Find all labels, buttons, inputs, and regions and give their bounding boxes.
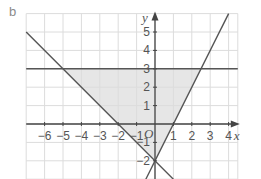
y-tick-label: −2 <box>136 154 150 168</box>
y-axis-arrow-icon <box>152 12 159 21</box>
x-tick-label: −4 <box>75 129 89 143</box>
x-tick-label: −6 <box>38 129 52 143</box>
y-tick-label: 2 <box>143 80 150 94</box>
y-tick-label: 3 <box>143 62 150 76</box>
x-tick-label: −2 <box>111 129 125 143</box>
origin-label: O <box>144 126 154 141</box>
x-tick-label: −3 <box>93 129 107 143</box>
x-tick-label: 1 <box>170 129 177 143</box>
y-tick-label: 1 <box>143 99 150 113</box>
coordinate-plot: −6−5−4−3−2−1123454321−1−2Oxy <box>0 0 261 179</box>
y-tick-label: 5 <box>143 25 150 39</box>
x-tick-label: −5 <box>56 129 70 143</box>
x-tick-label: 3 <box>207 129 214 143</box>
x-tick-label: 2 <box>188 129 195 143</box>
y-axis-label: y <box>140 10 148 25</box>
x-axis-label: x <box>233 128 240 143</box>
shaded-region <box>63 69 201 161</box>
x-axis-arrow-icon <box>231 121 240 128</box>
y-tick-label: 4 <box>143 43 150 57</box>
x-tick-label: 4 <box>225 129 232 143</box>
